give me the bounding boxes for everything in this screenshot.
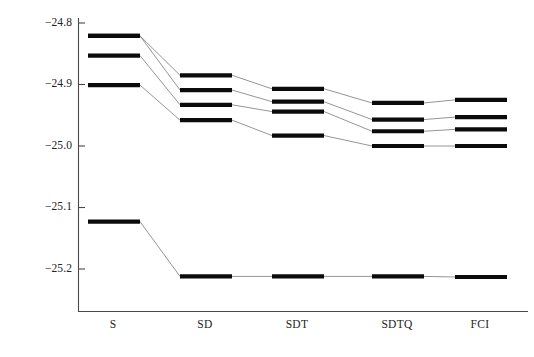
connector-line	[324, 102, 372, 120]
x-tick-label-sdtq: SDTQ	[381, 318, 413, 330]
connector-line	[140, 36, 180, 75]
y-tick-label: −25.0	[45, 139, 72, 151]
connector-line	[232, 75, 272, 89]
x-category-labels: S SD SDT SDTQ FCI	[110, 318, 490, 330]
connector-line	[140, 222, 180, 277]
connector-line	[424, 117, 455, 119]
y-tick-marks	[79, 23, 86, 269]
connector-line	[424, 100, 455, 103]
connector-line	[424, 276, 455, 277]
connector-lines	[140, 36, 455, 277]
x-tick-label-s: S	[110, 318, 117, 330]
chart-canvas: −24.8 −24.9 −25.0 −25.1 −25.2 S SD SDT S…	[0, 0, 534, 357]
x-tick-label-sdt: SDT	[286, 318, 309, 330]
y-tick-label: −24.9	[45, 77, 72, 89]
connector-line	[324, 112, 372, 132]
connector-line	[232, 120, 272, 135]
energy-level-diagram: −24.8 −24.9 −25.0 −25.1 −25.2 S SD SDT S…	[0, 0, 534, 357]
y-tick-label: −25.1	[45, 200, 72, 212]
connector-line	[424, 129, 455, 131]
connector-line	[232, 90, 272, 102]
connector-line	[324, 136, 372, 146]
x-tick-label-fci: FCI	[471, 318, 490, 330]
y-tick-label: −25.2	[45, 262, 72, 274]
x-tick-label-sd: SD	[197, 318, 212, 330]
connector-line	[140, 85, 180, 120]
connector-line	[324, 89, 372, 103]
connector-line	[232, 105, 272, 112]
energy-level-bars	[88, 36, 507, 277]
y-tick-label: −24.8	[45, 16, 72, 28]
y-tick-labels: −24.8 −24.9 −25.0 −25.1 −25.2	[45, 16, 72, 274]
